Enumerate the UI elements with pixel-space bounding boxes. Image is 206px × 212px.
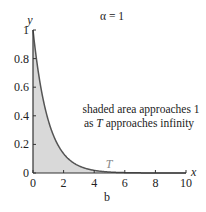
y-tick-label: 0.8 <box>14 52 29 66</box>
y-axis-label: y <box>26 13 33 27</box>
annotation-line-2: as T approaches infinity <box>84 117 194 130</box>
chart: 024681000.20.40.60.81 α = 1 y x shaded a… <box>0 0 206 212</box>
y-tick-label: 0 <box>23 166 29 180</box>
x-tick-label: 8 <box>152 176 158 190</box>
x-tick-label: 6 <box>122 176 128 190</box>
y-tick-label: 0.2 <box>14 137 29 151</box>
shaded-area <box>33 30 110 173</box>
x-axis-label: x <box>190 165 197 179</box>
annotation-line-1: shaded area approaches 1 <box>82 103 199 116</box>
y-tick-label: 0.6 <box>14 80 29 94</box>
y-tick-label: 0.4 <box>14 109 29 123</box>
x-tick-label: 2 <box>61 176 67 190</box>
panel-label: b <box>104 190 110 204</box>
annotation-suffix: approaches infinity <box>103 117 195 130</box>
x-tick-label: 0 <box>30 176 36 190</box>
T-marker-label: T <box>106 157 114 171</box>
annotation-prefix: as <box>84 117 96 129</box>
x-tick-label: 4 <box>91 176 97 190</box>
chart-title: α = 1 <box>100 10 124 22</box>
